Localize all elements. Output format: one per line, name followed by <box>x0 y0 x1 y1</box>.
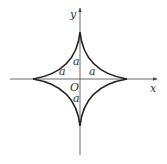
label-a-bottom: a <box>73 92 80 105</box>
x-axis-label: x <box>150 82 157 95</box>
astroid-diagram: y x O a a a a <box>0 0 167 164</box>
label-a-top: a <box>73 55 80 68</box>
label-a-right: a <box>89 65 96 78</box>
y-axis-label: y <box>69 8 77 21</box>
label-a-left: a <box>59 65 66 78</box>
